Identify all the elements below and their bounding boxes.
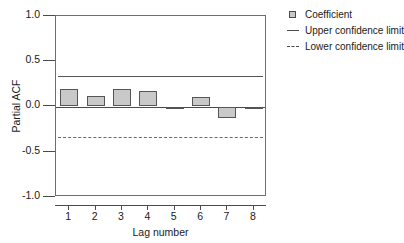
- legend-item-upper-confidence-limit: Upper confidence limit: [286, 24, 400, 37]
- legend-label: Lower confidence limit: [305, 41, 404, 52]
- bar-lag-2: [87, 96, 105, 107]
- y-tick-label: 0.5: [0, 53, 40, 65]
- y-tick-label: -0.5: [0, 144, 40, 156]
- bar-lag-7: [218, 107, 236, 119]
- upper-confidence-limit-line: [58, 76, 263, 77]
- bar-lag-1: [60, 89, 78, 106]
- bar-lag-5: [166, 107, 184, 109]
- x-tick-label: 8: [243, 210, 263, 222]
- chart-title-remnant: [34, 0, 270, 4]
- bar-lag-3: [113, 89, 131, 106]
- x-tick-label: 6: [190, 210, 210, 222]
- chart-legend: Coefficient Upper confidence limit Lower…: [286, 8, 400, 53]
- bar-lag-8: [245, 107, 263, 109]
- x-tick-label: 7: [216, 210, 236, 222]
- y-tick-label: -1.0: [0, 189, 40, 201]
- dashed-line-icon: [286, 46, 299, 47]
- plot-area: [55, 15, 266, 196]
- bar-lag-6: [192, 97, 210, 106]
- x-tick-label: 1: [58, 210, 78, 222]
- x-tick-label: 5: [164, 210, 184, 222]
- plot-inner: [56, 16, 265, 195]
- legend-item-coefficient: Coefficient: [286, 8, 400, 21]
- x-axis-line: [55, 205, 266, 206]
- legend-item-lower-confidence-limit: Lower confidence limit: [286, 40, 400, 53]
- y-tick-label: 0.0: [0, 98, 40, 110]
- legend-label: Upper confidence limit: [305, 25, 404, 36]
- x-tick-label: 3: [111, 210, 131, 222]
- bar-lag-4: [139, 91, 157, 106]
- solid-line-icon: [286, 30, 299, 31]
- lower-confidence-limit-line: [58, 137, 263, 138]
- y-tick-label: 1.0: [0, 8, 40, 20]
- square-swatch-icon: [286, 11, 299, 18]
- legend-label: Coefficient: [305, 9, 352, 20]
- x-tick-label: 4: [137, 210, 157, 222]
- x-axis-title: Lag number: [55, 226, 266, 238]
- x-tick-label: 2: [85, 210, 105, 222]
